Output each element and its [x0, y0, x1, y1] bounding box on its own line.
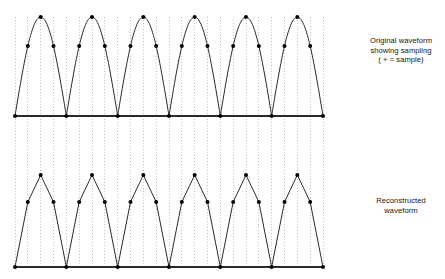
sampling-reconstruction-figure: Original waveform showing sampling ( + =… — [0, 0, 445, 279]
caption-original-waveform: Original waveform showing sampling ( + =… — [358, 36, 444, 65]
sample-guide-lines — [15, 17, 323, 267]
caption-reconstructed-line-1: Reconstructed — [358, 196, 444, 206]
caption-original-line-3: ( + = sample) — [358, 55, 444, 65]
caption-original-line-2: showing sampling — [358, 46, 444, 56]
caption-reconstructed-waveform: Reconstructed waveform — [358, 196, 444, 215]
original-sample-points — [13, 15, 325, 118]
caption-original-line-1: Original waveform — [358, 36, 444, 46]
caption-reconstructed-line-2: waveform — [358, 206, 444, 216]
